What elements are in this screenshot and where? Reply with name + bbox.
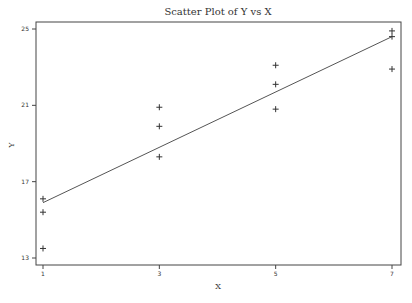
fit-line: [43, 37, 392, 203]
plus-marker-icon: [40, 209, 46, 215]
plus-marker-icon: [273, 81, 279, 87]
scatter-chart: Scatter Plot of Y vs X 13172125 1357 X Y: [0, 0, 412, 303]
chart-title: Scatter Plot of Y vs X: [164, 6, 272, 17]
plus-marker-icon: [389, 66, 395, 72]
y-tick-label: 17: [21, 178, 29, 185]
plus-marker-icon: [273, 62, 279, 68]
plus-marker-icon: [40, 245, 46, 251]
y-axis-label: Y: [7, 142, 16, 149]
plus-marker-icon: [389, 28, 395, 34]
plus-marker-icon: [156, 104, 162, 110]
plus-marker-icon: [156, 154, 162, 160]
plus-marker-icon: [273, 106, 279, 112]
plus-marker-icon: [40, 196, 46, 202]
plus-marker-icon: [389, 34, 395, 40]
y-tick-label: 25: [21, 25, 29, 32]
x-tick-label: 5: [274, 270, 278, 277]
x-tick-label: 1: [41, 270, 45, 277]
y-tick-label: 21: [21, 101, 29, 108]
x-axis-label: X: [215, 282, 221, 291]
regression-line: [43, 37, 392, 203]
plus-marker-icon: [156, 123, 162, 129]
x-tick-label: 7: [390, 270, 394, 277]
y-axis: 13172125: [21, 25, 36, 261]
x-tick-label: 3: [157, 270, 161, 277]
data-points: [40, 28, 395, 252]
x-axis: 1357: [41, 265, 394, 277]
y-tick-label: 13: [21, 254, 29, 261]
